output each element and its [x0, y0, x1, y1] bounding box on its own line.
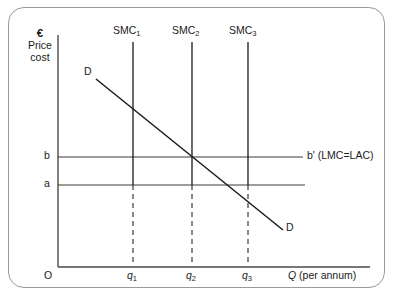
smc3-label-sub: 3: [252, 29, 256, 38]
demand-label-bottom: D: [286, 222, 294, 234]
q3-sub: 3: [248, 274, 252, 283]
smc1-label: SMC1: [113, 25, 141, 37]
x-tick-q2-label: q2: [186, 270, 196, 282]
smc1-label-sub: 1: [136, 29, 140, 38]
smc2-label-text: SMC: [172, 24, 195, 36]
y-tick-a-label: a: [44, 178, 50, 190]
figure-page: € Price cost SMC1 SMC2 SMC3 D D b' (LMC=…: [0, 0, 396, 301]
q2-symbol: q: [186, 269, 192, 281]
y-axis-label-cost: cost: [22, 52, 58, 64]
q1-sub: 1: [133, 274, 137, 283]
q2-sub: 2: [192, 274, 196, 283]
smc3-label: SMC3: [229, 25, 257, 37]
demand-curve: [96, 79, 283, 230]
x-axis-label: Q (per annum): [288, 270, 356, 282]
smc3-label-text: SMC: [229, 24, 252, 36]
x-axis-label-text: (per annum): [296, 269, 356, 281]
smc1-label-text: SMC: [113, 24, 136, 36]
x-tick-q3-label: q3: [242, 270, 252, 282]
x-axis-label-symbol: Q: [288, 269, 296, 281]
y-axis-label-price: Price: [22, 40, 58, 52]
lmc-lac-label: b' (LMC=LAC): [307, 150, 373, 162]
smc2-label: SMC2: [172, 25, 200, 37]
origin-label: O: [44, 270, 52, 282]
q3-symbol: q: [242, 269, 248, 281]
q1-symbol: q: [127, 269, 133, 281]
demand-label-top: D: [84, 66, 92, 78]
x-tick-q1-label: q1: [127, 270, 137, 282]
y-tick-b-label: b: [44, 150, 50, 162]
y-axis-label-group: € Price cost: [22, 27, 58, 63]
smc2-label-sub: 2: [195, 29, 199, 38]
currency-symbol: €: [22, 27, 58, 40]
